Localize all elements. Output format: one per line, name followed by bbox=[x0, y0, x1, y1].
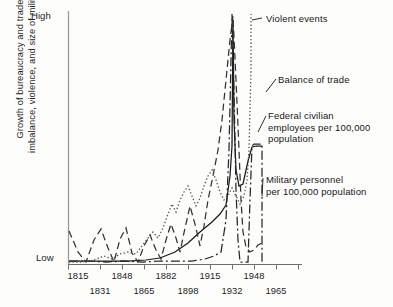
x-tick-label-1831: 1831 bbox=[90, 285, 111, 296]
series-path-violent-events bbox=[69, 14, 251, 262]
plot-canvas bbox=[0, 0, 393, 307]
x-tick-label-1948: 1948 bbox=[244, 270, 265, 281]
x-tick-label-1882: 1882 bbox=[156, 270, 177, 281]
x-tick-label-1865: 1865 bbox=[134, 285, 155, 296]
series-label-military-personnel: Military personnel per 100,000 populatio… bbox=[266, 174, 367, 197]
leader-line-balance-of-trade bbox=[266, 79, 276, 92]
x-tick-label-1915: 1915 bbox=[200, 270, 221, 281]
x-tick-label-1898: 1898 bbox=[178, 285, 199, 296]
leader-line-violent-events bbox=[252, 18, 262, 20]
leader-line-federal-civilian bbox=[258, 116, 266, 132]
chart-figure: Growth of bureaucracy and trade imbalanc… bbox=[0, 0, 393, 307]
annotation-leader-lines bbox=[252, 18, 276, 196]
y-axis-high-label: High bbox=[31, 10, 51, 21]
y-axis-low-label: Low bbox=[36, 252, 54, 263]
series-label-balance-of-trade: Balance of trade bbox=[278, 74, 350, 86]
series-path-military-personnel bbox=[69, 20, 262, 261]
x-axis-ticks bbox=[69, 265, 299, 270]
x-tick-label-1815: 1815 bbox=[68, 270, 89, 281]
x-tick-label-1932: 1932 bbox=[222, 285, 243, 296]
series-path-federal-civilian-employees bbox=[69, 14, 262, 262]
series-label-federal-civilian-employees: Federal civilian employees per 100,000 p… bbox=[268, 110, 370, 145]
x-tick-label-1965: 1965 bbox=[266, 285, 287, 296]
series-label-violent-events: Violent events bbox=[266, 13, 328, 25]
x-tick-label-1848: 1848 bbox=[112, 270, 133, 281]
